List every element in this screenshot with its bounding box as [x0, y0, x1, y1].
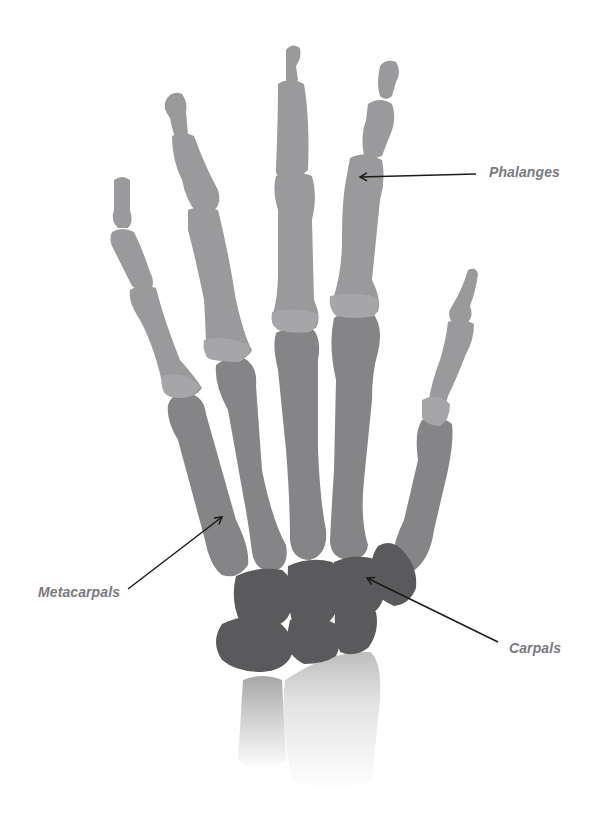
metacarpals-label: Metacarpals [38, 584, 120, 600]
hand-skeleton-diagram: Phalanges Metacarpals Carpals [0, 0, 595, 821]
carpals-arrow [367, 578, 498, 642]
forearm-bones [238, 652, 380, 790]
hand-skeleton-illustration [0, 0, 595, 821]
carpals-label: Carpals [509, 640, 561, 656]
phalanges-label: Phalanges [489, 164, 560, 180]
metacarpals-arrow [128, 517, 222, 589]
